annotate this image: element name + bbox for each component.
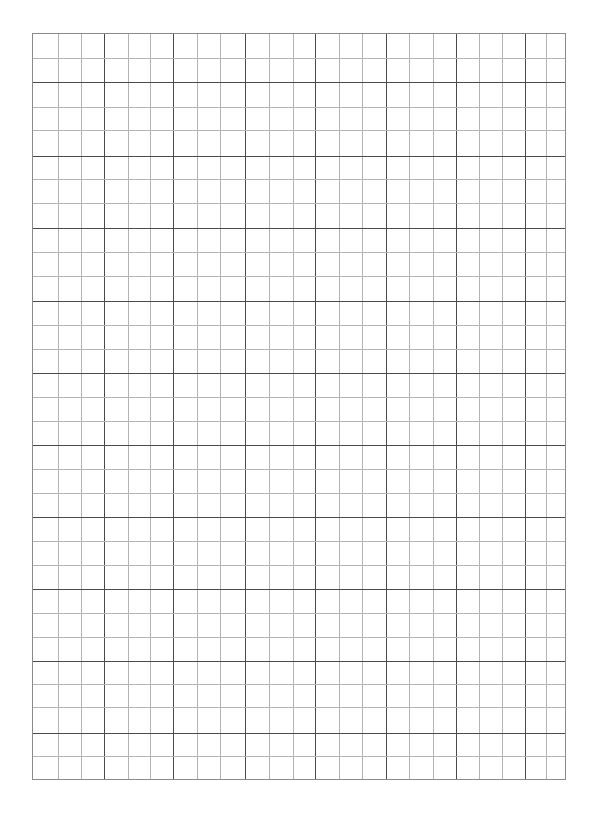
minor-vertical-gridline xyxy=(502,34,503,779)
minor-vertical-gridline xyxy=(58,34,59,779)
minor-horizontal-gridline xyxy=(33,541,565,542)
minor-vertical-gridline xyxy=(409,34,410,779)
minor-horizontal-gridline xyxy=(33,276,565,277)
major-horizontal-gridline xyxy=(33,733,565,734)
minor-vertical-gridline xyxy=(128,34,129,779)
minor-vertical-gridline xyxy=(150,34,151,779)
major-vertical-gridline xyxy=(525,34,526,779)
major-horizontal-gridline xyxy=(33,445,565,446)
major-horizontal-gridline xyxy=(33,82,565,83)
minor-vertical-gridline xyxy=(197,34,198,779)
major-vertical-gridline xyxy=(173,34,174,779)
minor-vertical-gridline xyxy=(293,34,294,779)
major-horizontal-gridline xyxy=(33,156,565,157)
grid-area xyxy=(32,33,566,780)
minor-horizontal-gridline xyxy=(33,349,565,350)
major-horizontal-gridline xyxy=(33,301,565,302)
minor-horizontal-gridline xyxy=(33,421,565,422)
minor-horizontal-gridline xyxy=(33,756,565,757)
major-vertical-gridline xyxy=(456,34,457,779)
minor-vertical-gridline xyxy=(362,34,363,779)
minor-horizontal-gridline xyxy=(33,203,565,204)
minor-horizontal-gridline xyxy=(33,469,565,470)
major-vertical-gridline xyxy=(245,34,246,779)
major-horizontal-gridline xyxy=(33,517,565,518)
minor-horizontal-gridline xyxy=(33,707,565,708)
minor-horizontal-gridline xyxy=(33,179,565,180)
graph-paper-page xyxy=(0,0,598,816)
major-horizontal-gridline xyxy=(33,661,565,662)
major-vertical-gridline xyxy=(315,34,316,779)
major-vertical-gridline xyxy=(386,34,387,779)
minor-horizontal-gridline xyxy=(33,397,565,398)
minor-horizontal-gridline xyxy=(33,107,565,108)
minor-horizontal-gridline xyxy=(33,325,565,326)
minor-vertical-gridline xyxy=(433,34,434,779)
minor-horizontal-gridline xyxy=(33,252,565,253)
minor-horizontal-gridline xyxy=(33,613,565,614)
major-vertical-gridline xyxy=(104,34,105,779)
minor-horizontal-gridline xyxy=(33,130,565,131)
minor-vertical-gridline xyxy=(220,34,221,779)
minor-horizontal-gridline xyxy=(33,493,565,494)
major-horizontal-gridline xyxy=(33,228,565,229)
minor-horizontal-gridline xyxy=(33,684,565,685)
minor-vertical-gridline xyxy=(339,34,340,779)
major-horizontal-gridline xyxy=(33,373,565,374)
minor-vertical-gridline xyxy=(479,34,480,779)
major-horizontal-gridline xyxy=(33,589,565,590)
minor-vertical-gridline xyxy=(546,34,547,779)
minor-horizontal-gridline xyxy=(33,58,565,59)
minor-horizontal-gridline xyxy=(33,565,565,566)
minor-horizontal-gridline xyxy=(33,637,565,638)
minor-vertical-gridline xyxy=(269,34,270,779)
minor-vertical-gridline xyxy=(81,34,82,779)
